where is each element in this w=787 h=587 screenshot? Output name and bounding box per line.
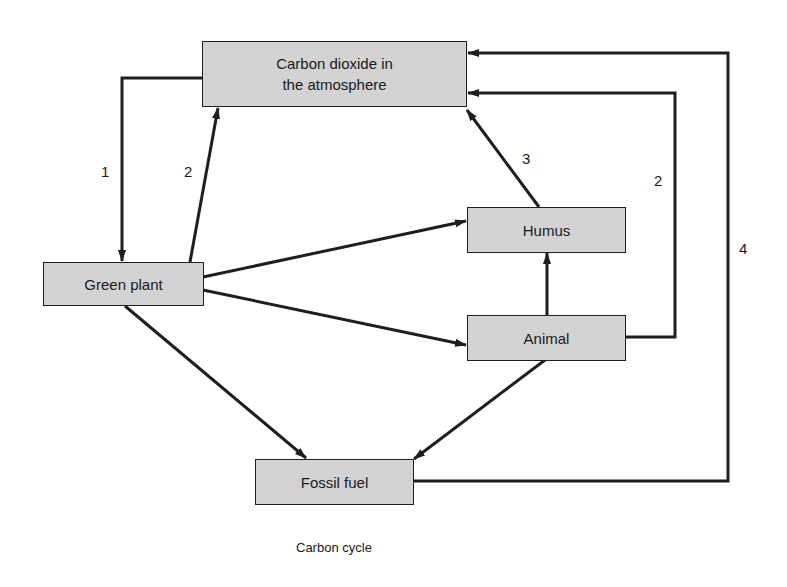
diagram-caption: Carbon cycle xyxy=(296,540,372,555)
arrow-fossil-fuel-to-co2 xyxy=(413,53,728,481)
node-co2-atmosphere: Carbon dioxide in the atmosphere xyxy=(202,41,467,107)
edge-label-2-right: 2 xyxy=(654,172,662,189)
node-co2-line1: Carbon dioxide in xyxy=(276,53,393,74)
edge-label-4: 4 xyxy=(739,240,747,257)
node-green-plant: Green plant xyxy=(43,262,204,306)
edge-label-3: 3 xyxy=(522,150,530,167)
arrow-green-plant-to-fossil-fuel xyxy=(125,306,306,458)
node-co2-line2: the atmosphere xyxy=(282,74,386,95)
arrow-green-plant-to-humus xyxy=(203,221,466,277)
arrow-green-plant-to-animal xyxy=(203,290,466,345)
arrow-animal-to-fossil-fuel xyxy=(414,360,545,459)
edge-label-2-left: 2 xyxy=(184,163,192,180)
node-fossil-fuel-label: Fossil fuel xyxy=(301,472,369,493)
node-animal-label: Animal xyxy=(524,328,570,349)
node-green-plant-label: Green plant xyxy=(84,274,162,295)
node-humus: Humus xyxy=(467,207,626,253)
node-fossil-fuel: Fossil fuel xyxy=(255,459,414,505)
arrow-green-plant-to-co2 xyxy=(190,108,218,262)
edge-label-1: 1 xyxy=(101,163,109,180)
node-animal: Animal xyxy=(467,315,626,361)
node-humus-label: Humus xyxy=(523,220,571,241)
